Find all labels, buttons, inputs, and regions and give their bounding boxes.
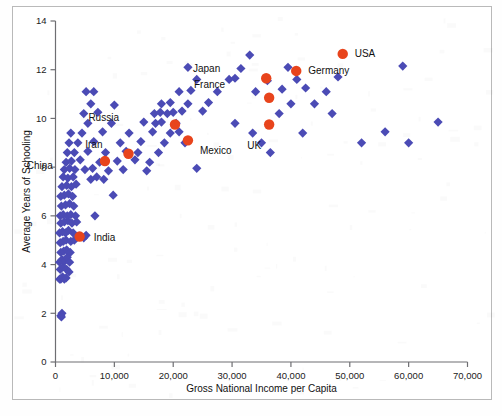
scan-artifact bbox=[111, 365, 120, 370]
y-tick-label: 6 bbox=[41, 210, 46, 221]
scan-artifact bbox=[450, 137, 460, 142]
scan-artifact bbox=[47, 90, 49, 95]
x-tick-label: 20,000 bbox=[159, 370, 188, 381]
scan-artifact bbox=[231, 42, 236, 44]
scan-artifact bbox=[327, 291, 334, 293]
scan-artifact bbox=[443, 18, 445, 23]
data-point bbox=[381, 127, 390, 136]
y-axis-ticks: 02468101214 bbox=[36, 15, 56, 367]
highlighted-data-point bbox=[170, 119, 180, 129]
data-point bbox=[328, 109, 337, 118]
scan-artifact bbox=[360, 161, 362, 165]
scan-artifact bbox=[128, 354, 130, 357]
scan-artifact bbox=[122, 332, 123, 337]
data-point bbox=[79, 109, 88, 118]
scan-artifact bbox=[409, 229, 411, 230]
scan-artifact bbox=[252, 63, 259, 66]
scan-artifact bbox=[403, 133, 410, 137]
scan-artifact bbox=[301, 157, 302, 158]
data-point bbox=[99, 175, 108, 184]
data-point bbox=[198, 107, 207, 116]
scan-artifact bbox=[159, 300, 165, 304]
scan-artifact bbox=[474, 142, 478, 146]
data-point bbox=[169, 108, 178, 117]
point-label: Japan bbox=[193, 63, 220, 74]
data-point bbox=[230, 74, 239, 83]
x-tick-label: 10,000 bbox=[100, 370, 129, 381]
scan-artifact bbox=[83, 156, 84, 158]
point-label: UK bbox=[247, 140, 261, 151]
data-point bbox=[298, 128, 307, 137]
data-point bbox=[157, 117, 166, 126]
scan-artifact bbox=[94, 194, 99, 195]
highlighted-data-point bbox=[264, 119, 274, 129]
scan-artifact bbox=[293, 257, 296, 262]
scan-artifact bbox=[147, 187, 149, 191]
data-point bbox=[109, 191, 118, 200]
scan-artifact bbox=[180, 214, 182, 218]
x-tick-label: 50,000 bbox=[335, 370, 364, 381]
scan-artifact bbox=[278, 17, 283, 21]
scan-artifact bbox=[267, 243, 268, 246]
x-tick-label: 40,000 bbox=[276, 370, 305, 381]
point-label: USA bbox=[355, 48, 376, 59]
scan-artifact bbox=[161, 37, 165, 40]
scan-artifact bbox=[108, 57, 112, 60]
scan-artifact bbox=[113, 73, 117, 79]
data-point bbox=[77, 128, 86, 137]
scan-artifact bbox=[175, 185, 181, 191]
scan-artifact bbox=[298, 57, 306, 60]
point-label: India bbox=[94, 232, 116, 243]
highlighted-data-point bbox=[291, 66, 301, 76]
scan-artifact bbox=[22, 289, 32, 293]
scan-artifact bbox=[179, 312, 187, 317]
scan-artifact bbox=[235, 222, 237, 227]
data-point bbox=[322, 87, 331, 96]
data-point bbox=[204, 98, 213, 107]
x-tick-label: 60,000 bbox=[394, 370, 423, 381]
highlighted-data-point bbox=[74, 231, 84, 241]
scan-artifact bbox=[439, 50, 444, 54]
scan-artifact bbox=[380, 380, 386, 381]
scan-artifact bbox=[61, 295, 63, 300]
scan-artifact bbox=[378, 142, 386, 146]
scan-artifact bbox=[421, 284, 427, 288]
scan-artifact bbox=[156, 255, 163, 257]
data-point bbox=[80, 165, 89, 174]
data-point bbox=[301, 83, 310, 92]
data-point bbox=[148, 127, 157, 136]
highlighted-data-point bbox=[183, 135, 193, 145]
scan-artifact bbox=[447, 23, 456, 28]
scan-artifact bbox=[320, 86, 323, 88]
scan-artifact bbox=[227, 51, 231, 56]
scan-artifact bbox=[47, 218, 53, 224]
data-point bbox=[64, 138, 73, 147]
scan-artifact bbox=[276, 264, 277, 269]
scan-artifact bbox=[435, 119, 437, 120]
scan-artifact bbox=[368, 91, 370, 97]
scan-artifact bbox=[59, 387, 60, 392]
scan-artifact bbox=[234, 248, 238, 252]
scan-artifact bbox=[166, 61, 172, 64]
scan-artifact bbox=[257, 276, 261, 277]
chart-svg: 02468101214 010,00020,00030,00040,00050,… bbox=[0, 0, 502, 416]
scan-artifact bbox=[89, 375, 96, 377]
data-point bbox=[166, 128, 175, 137]
data-point bbox=[104, 166, 113, 175]
data-point bbox=[154, 148, 163, 157]
scan-artifact bbox=[14, 316, 24, 319]
scan-artifact bbox=[350, 225, 353, 230]
scan-artifact bbox=[485, 232, 487, 233]
data-point bbox=[119, 165, 128, 174]
point-label: Germany bbox=[308, 65, 349, 76]
scan-artifact bbox=[157, 309, 167, 310]
scan-artifact bbox=[70, 354, 74, 356]
data-point bbox=[89, 87, 98, 96]
data-point bbox=[136, 137, 145, 146]
scan-artifact bbox=[228, 328, 238, 332]
scan-artifact bbox=[484, 48, 493, 53]
scan-artifact bbox=[440, 196, 447, 201]
scan-artifact bbox=[419, 117, 421, 122]
scatter-plot: 02468101214 010,00020,00030,00040,00050,… bbox=[0, 0, 502, 416]
scan-artifact bbox=[181, 303, 185, 307]
